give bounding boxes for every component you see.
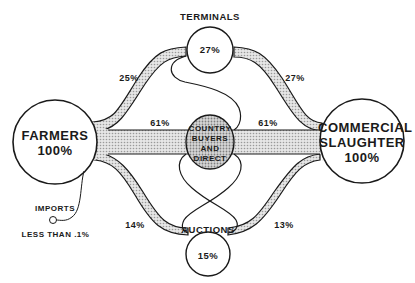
flow-label-terminals-slaughter: 27% xyxy=(283,73,307,83)
flow-farmers-terminals xyxy=(93,47,186,130)
country-label-line3: AND xyxy=(180,144,240,153)
country-label-line2: BUYERS xyxy=(180,134,240,143)
node-imports xyxy=(50,217,57,224)
farmers-value: 100% xyxy=(15,143,95,158)
imports-value: LESS THAN .1% xyxy=(18,230,93,239)
slaughter-value: 100% xyxy=(318,150,406,165)
terminals-value: 27% xyxy=(190,44,230,55)
flow-label-farmers-auctions: 14% xyxy=(123,220,147,230)
flow-label-farmers-terminals: 25% xyxy=(117,73,141,83)
country-label-line1: COUNTRY xyxy=(180,124,240,133)
slaughter-label-line2: SLAUGHTER xyxy=(318,135,406,150)
terminals-label: TERMINALS xyxy=(170,11,250,22)
flow-label-country-slaughter: 61% xyxy=(256,118,280,128)
flow-label-farmers-country: 61% xyxy=(148,118,172,128)
slaughter-label-line1: COMMERCIAL xyxy=(318,120,406,135)
farmers-label: FARMERS xyxy=(15,128,95,143)
country-label-line4: DIRECT xyxy=(180,154,240,163)
flow-label-auctions-slaughter: 13% xyxy=(272,220,296,230)
imports-label: IMPORTS xyxy=(30,204,80,213)
auctions-label: AUCTIONS xyxy=(168,224,248,235)
auctions-value: 15% xyxy=(188,250,228,261)
